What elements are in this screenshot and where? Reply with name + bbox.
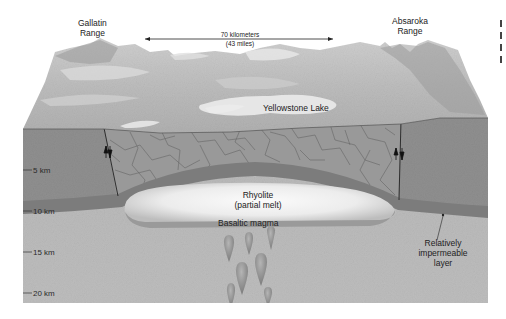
- absaroka-line1: Absaroka: [392, 16, 428, 26]
- depth-label-15km: 15 km: [33, 248, 55, 257]
- basaltic-magma-label: Basaltic magma: [218, 218, 278, 228]
- yellowstone-lake-label: Yellowstone Lake: [263, 103, 329, 113]
- layer-line3: layer: [411, 258, 475, 268]
- gallatin-range-label: Gallatin Range: [78, 18, 107, 38]
- gallatin-line2: Range: [78, 28, 107, 38]
- depth-label-5km: 5 km: [33, 166, 50, 175]
- layer-line2: impermeable: [411, 248, 475, 258]
- scale-bar-label: 70 kilometers (43 miles): [218, 31, 262, 47]
- rhyolite-label: Rhyolite (partial melt): [224, 190, 292, 210]
- caldera-diagram: [0, 0, 506, 319]
- absaroka-range-label: Absaroka Range: [392, 16, 428, 36]
- rhyolite-line1: Rhyolite: [224, 190, 292, 200]
- scale-miles: (43 miles): [218, 40, 262, 48]
- layer-line1: Relatively: [411, 238, 475, 248]
- landscape-surface: [23, 38, 488, 133]
- scale-km: 70 kilometers: [218, 31, 262, 39]
- rhyolite-line2: (partial melt): [224, 200, 292, 210]
- impermeable-layer-label: Relatively impermeable layer: [411, 238, 475, 268]
- depth-label-20km: 20 km: [33, 289, 55, 298]
- cropped-text-fragment: [500, 20, 504, 68]
- absaroka-line2: Range: [392, 26, 428, 36]
- depth-label-10km: 10 km: [33, 207, 55, 216]
- gallatin-line1: Gallatin: [78, 18, 107, 28]
